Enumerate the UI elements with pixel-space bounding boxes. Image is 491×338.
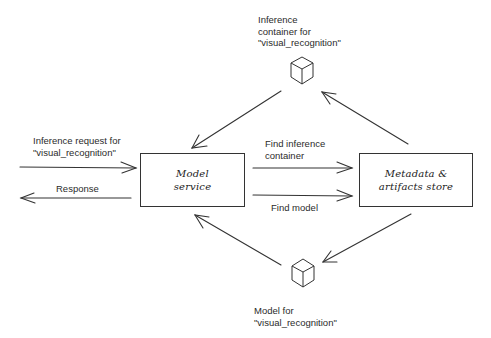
model-label-line2: "visual_recognition" [254,317,337,329]
request-arrow [20,162,136,173]
request-label-line1: Inference request for [33,135,121,147]
model-label-line1: Model for [254,305,337,317]
response-label: Response [56,183,99,195]
model-service-node[interactable]: Model service [140,153,245,207]
metadata-store-label-line2: artifacts store [379,180,453,193]
inference-container-label-line1: Inference [258,14,341,26]
find-container-label: Find inference container [265,138,325,161]
response-arrow [21,193,131,203]
inference-container-label-line3: "visual_recognition" [258,37,341,49]
store-to-container-arrow [322,92,408,144]
find-model-arrow [253,190,352,201]
find-container-arrow [253,162,352,173]
model-to-service-arrow [195,215,281,265]
model-cube-icon [292,259,314,287]
request-label-line2: "visual_recognition" [33,147,121,159]
response-label-text: Response [56,183,99,194]
request-label: Inference request for "visual_recognitio… [33,135,121,158]
container-cube-icon [291,57,313,84]
store-to-model-arrow [323,214,411,262]
metadata-store-node[interactable]: Metadata & artifacts store [359,153,473,207]
inference-container-label: Inference container for "visual_recognit… [258,14,341,49]
find-model-label-text: Find model [271,202,318,213]
inference-container-label-line2: container for [258,26,341,38]
find-container-label-line1: Find inference [265,138,325,150]
model-service-label-line2: service [174,180,212,193]
model-label: Model for "visual_recognition" [254,305,337,328]
model-service-label-line1: Model [174,167,212,180]
metadata-store-label-line1: Metadata & [379,167,453,180]
find-container-label-line2: container [265,150,325,162]
find-model-label: Find model [271,202,318,214]
